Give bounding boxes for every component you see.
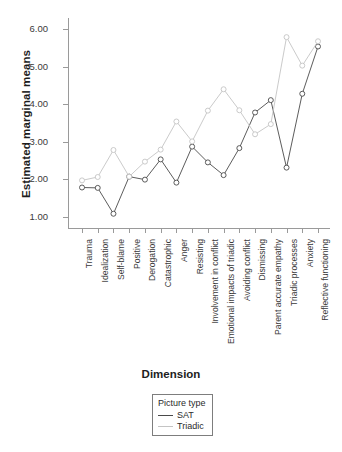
data-point [95,185,100,190]
x-tick-label: Derogation [148,239,157,281]
x-tick-label: Reflective functioning [321,239,330,321]
y-tick-label: 5.00 [14,62,48,71]
x-tick-label: Self-blame [117,239,126,280]
data-point [142,177,147,182]
x-tick [302,228,303,233]
x-tick [255,228,256,233]
data-point [142,159,147,164]
data-point [80,185,85,190]
legend-item-sat[interactable]: SAT [158,410,206,420]
x-tick [239,228,240,233]
series-line-triadic [82,37,318,180]
x-tick-label: Involvement in conflict [211,239,220,324]
x-tick [318,228,319,233]
data-series-layer [68,18,330,228]
x-tick-label: Avoiding conflict [243,239,252,301]
data-point [174,180,179,185]
y-tick-label: 4.00 [14,99,48,108]
data-point [174,119,179,124]
x-tick-label: Emotional impacts of triadic [227,239,236,344]
legend-label: Triadic [177,421,204,431]
x-tick [271,228,272,233]
data-point [300,63,305,68]
y-tick-label: 6.00 [14,24,48,33]
y-tick-label: 3.00 [14,137,48,146]
chart-figure: Estimated marginal means 1.002.003.004.0… [0,0,342,452]
data-point [205,160,210,165]
x-tick [287,228,288,233]
x-tick [98,228,99,233]
data-point [205,108,210,113]
x-tick [161,228,162,233]
data-point [237,146,242,151]
data-point [190,139,195,144]
series-line-sat [82,47,318,214]
x-tick-label: Idealization [101,239,110,282]
x-tick [82,228,83,233]
x-tick [208,228,209,233]
data-point [268,98,273,103]
x-axis-line [68,228,330,229]
data-point [300,91,305,96]
data-point [111,211,116,216]
data-point [127,174,132,179]
x-tick [113,228,114,233]
x-tick [224,228,225,233]
x-tick-label: Anger [180,239,189,262]
data-point [284,165,289,170]
x-tick-label: Positive [133,239,142,269]
plot-area: 1.002.003.004.005.006.00 TraumaIdealizat… [68,18,330,228]
y-tick-label: 1.00 [14,212,48,221]
data-point [221,87,226,92]
x-tick-label: Triadic processes [290,239,299,306]
x-axis-title: Dimension [0,368,342,380]
x-tick-label: Dismissing [258,239,267,281]
y-tick-label: 2.00 [14,174,48,183]
data-point [253,110,258,115]
legend: Picture type SATTriadic [152,394,213,436]
data-point [253,132,258,137]
x-tick-label: Anxiety [306,239,315,267]
data-point [158,147,163,152]
data-point [158,157,163,162]
data-point [316,39,321,44]
x-tick [129,228,130,233]
legend-swatch [158,415,173,416]
y-axis-title: Estimated marginal means [20,24,32,224]
data-point [284,35,289,40]
data-point [95,175,100,180]
data-point [190,144,195,149]
data-point [80,178,85,183]
legend-entries: SATTriadic [158,410,206,431]
x-tick [192,228,193,233]
x-tick-label: Catastrophic [164,239,173,287]
legend-label: SAT [177,410,194,420]
data-point [111,148,116,153]
data-point [237,108,242,113]
legend-title: Picture type [158,398,206,408]
x-tick-label: Resisting [196,239,205,274]
x-tick-label: Trauma [85,239,94,268]
x-tick-label: Parent accurate empathy [274,239,283,335]
legend-item-triadic[interactable]: Triadic [158,421,206,431]
x-tick [176,228,177,233]
legend-swatch [158,426,173,427]
data-point [221,173,226,178]
data-point [268,122,273,127]
x-tick [145,228,146,233]
